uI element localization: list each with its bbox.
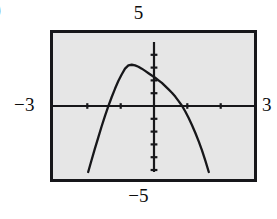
x-max-label: 3: [262, 95, 272, 114]
y-min-label: −5: [0, 186, 277, 205]
graphing-calculator-figure: ): [0, 0, 277, 219]
plot-canvas: [53, 33, 254, 179]
calculator-screen: [50, 30, 257, 182]
x-min-label: −3: [14, 95, 35, 114]
y-max-label: 5: [0, 3, 277, 22]
plotted-curve: [88, 65, 209, 172]
